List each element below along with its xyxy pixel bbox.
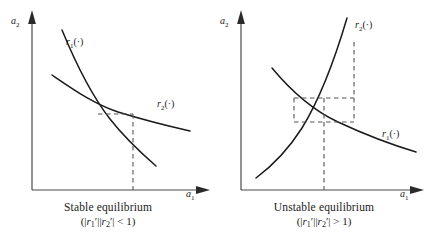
curve-label-r2-unstable: r2(·) bbox=[355, 19, 372, 33]
plot-unstable bbox=[216, 0, 432, 200]
curve-r1-stable bbox=[62, 30, 156, 166]
plot-stable-svg bbox=[0, 0, 216, 200]
dashed-guides-unstable bbox=[294, 42, 354, 190]
reaction-function-figure: a2 a1 r1(·) r2(·) Stable equilibrium (|r… bbox=[0, 0, 433, 250]
caption-unstable: Unstable equilibrium (|r1′||r2′| > 1) bbox=[216, 200, 432, 232]
x-axis-unstable bbox=[241, 186, 424, 194]
curve-label-r1-stable: r1(·) bbox=[66, 36, 83, 50]
x-axis-stable bbox=[32, 186, 210, 194]
panel-row: a2 a1 r1(·) r2(·) Stable equilibrium (|r… bbox=[0, 0, 433, 250]
curve-label-r2-stable: r2(·) bbox=[157, 98, 174, 112]
curve-label-r1-unstable: r1(·) bbox=[382, 128, 399, 142]
y-axis-stable bbox=[28, 10, 36, 190]
caption-unstable-condition: (|r1′||r2′| > 1) bbox=[216, 214, 432, 232]
plot-stable bbox=[0, 0, 216, 200]
plot-unstable-svg bbox=[216, 0, 432, 200]
caption-stable-title: Stable equilibrium bbox=[0, 200, 216, 214]
caption-stable-condition: (|r1′||r2′| < 1) bbox=[0, 214, 216, 232]
panel-stable: a2 a1 r1(·) r2(·) Stable equilibrium (|r… bbox=[0, 0, 216, 250]
y-axis-unstable bbox=[237, 10, 245, 190]
panel-unstable: a2 a1 r2(·) r1(·) Unstable equilibrium (… bbox=[216, 0, 432, 250]
y-axis-label-unstable: a2 bbox=[220, 15, 229, 29]
y-axis-label-stable: a2 bbox=[11, 15, 20, 29]
caption-stable: Stable equilibrium (|r1′||r2′| < 1) bbox=[0, 200, 216, 232]
caption-unstable-title: Unstable equilibrium bbox=[216, 200, 432, 214]
